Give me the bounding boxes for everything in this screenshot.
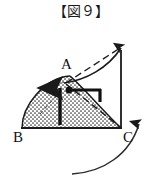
right-angle-marker-dot [66,87,73,94]
figure-screenshot: 【図９】 [0,0,161,183]
vertex-label-b: B [13,130,23,145]
vertex-label-a: A [61,57,72,72]
shaded-region [22,76,121,128]
vertex-label-c: C [123,130,133,145]
figure-title: 【図９】 [0,2,161,20]
dashed-chord-apex [66,48,120,83]
diagram-canvas [0,26,161,183]
